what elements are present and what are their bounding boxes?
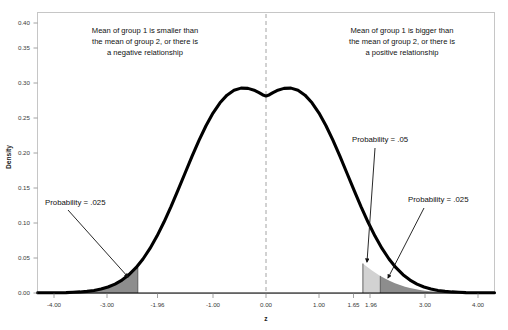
right-note-line1: Mean of group 1 is bigger than [350,26,453,35]
y-tick-label-0: 0.00 [18,289,31,296]
y-tick-label-2: 0.10 [18,219,31,226]
prob-label-right-05: Probability = .05 [352,135,409,144]
left-note-line3: a negative relationship [107,48,183,57]
x-tick-label-4: 0.00 [260,301,273,308]
y-tick-label-7: 0.35 [18,44,31,51]
x-tick-label-0: -4.00 [47,301,62,308]
x-tick-label-1: -3.00 [100,301,115,308]
x-tick-label-7: 1.96 [365,301,378,308]
y-tick-label-1: 0.05 [18,254,31,261]
x-tick-label-5: 1.00 [313,301,326,308]
y-tick-label-6: 0.30 [18,79,31,86]
y-axis-title: Density [5,145,13,169]
y-tick-label-4: 0.20 [18,149,31,156]
left-note-line2: the mean of group 2, or there is [92,37,198,46]
y-tick-label-8: 0.40 [18,19,31,26]
chart-page: 0.00 0.05 0.10 0.15 0.20 0.25 0.30 0.35 … [0,0,508,330]
normal-distribution-chart: 0.00 0.05 0.10 0.15 0.20 0.25 0.30 0.35 … [0,0,508,330]
x-tick-label-6: 1.65 [347,301,360,308]
left-note-line1: Mean of group 1 is smaller than [92,26,198,35]
right-note-line2: the mean of group 2, or there is [349,37,455,46]
x-tick-label-8: 3.00 [419,301,432,308]
x-tick-label-9: 4.00 [472,301,485,308]
y-tick-label-3: 0.15 [18,184,31,191]
x-tick-label-3: -1.00 [206,301,221,308]
x-tick-label-2: -1.96 [150,301,165,308]
prob-label-right-025: Probability = .025 [408,195,469,204]
right-note-line3: a positive relationship [365,48,438,57]
prob-label-left: Probability = .025 [45,198,106,207]
y-tick-label-5: 0.25 [18,114,31,121]
